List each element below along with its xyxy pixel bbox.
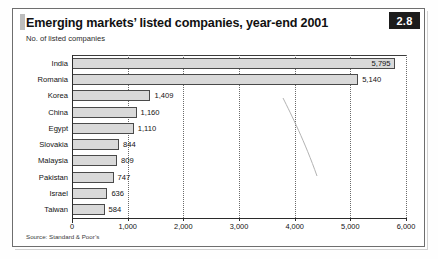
x-axis-tick bbox=[183, 218, 184, 221]
gridline bbox=[406, 55, 407, 218]
bar-value-label: 584 bbox=[105, 204, 122, 215]
x-axis-tick bbox=[406, 218, 407, 221]
category-label: Korea bbox=[2, 90, 68, 101]
plot-area: 5,7955,1401,4091,1601,110844809747636584 bbox=[72, 55, 406, 218]
bar bbox=[72, 172, 114, 183]
category-label: India bbox=[2, 58, 68, 69]
bar-row: 844 bbox=[72, 139, 406, 150]
source-note: Source: Standard & Poor’s bbox=[26, 233, 99, 240]
bar-row: 1,160 bbox=[72, 107, 406, 118]
bar bbox=[72, 204, 105, 215]
bar-value-label: 636 bbox=[107, 188, 124, 199]
bar-value-label: 1,409 bbox=[150, 90, 173, 101]
x-axis-label: 0 bbox=[70, 222, 74, 231]
x-axis-label: 1,000 bbox=[118, 222, 137, 231]
bar bbox=[72, 74, 358, 85]
bar bbox=[72, 155, 117, 166]
x-axis-label: 2,000 bbox=[174, 222, 193, 231]
bar-value-label: 844 bbox=[119, 139, 136, 150]
x-axis-tick bbox=[239, 218, 240, 221]
bar-value-label: 1,110 bbox=[134, 123, 156, 134]
x-axis-label: 6,000 bbox=[397, 222, 416, 231]
bar-row: 584 bbox=[72, 204, 406, 215]
bar-row: 5,140 bbox=[72, 74, 406, 85]
category-label: China bbox=[2, 107, 68, 118]
bar bbox=[72, 123, 134, 134]
bar-row: 809 bbox=[72, 155, 406, 166]
chart-subtitle: No. of listed companies bbox=[26, 34, 105, 43]
bar-value-label: 747 bbox=[114, 172, 131, 183]
bar bbox=[72, 90, 150, 101]
bar-value-label: 1,160 bbox=[137, 107, 160, 118]
bar-row: 636 bbox=[72, 188, 406, 199]
x-axis-tick bbox=[350, 218, 351, 221]
bar bbox=[72, 139, 119, 150]
bar-row: 1,110 bbox=[72, 123, 406, 134]
x-axis-label: 3,000 bbox=[230, 222, 249, 231]
category-label: Pakistan bbox=[2, 172, 68, 183]
bar-row: 1,409 bbox=[72, 90, 406, 101]
category-axis-labels: IndiaRomaniaKoreaChinaEgyptSlovakiaMalay… bbox=[0, 55, 68, 218]
category-label: Israel bbox=[2, 188, 68, 199]
x-axis-tick bbox=[72, 218, 73, 221]
category-label: Romania bbox=[2, 74, 68, 85]
category-label: Taiwan bbox=[2, 204, 68, 215]
y-axis-line bbox=[72, 55, 73, 223]
category-label: Egypt bbox=[2, 123, 68, 134]
bar-value-label: 809 bbox=[117, 155, 134, 166]
x-axis-label: 5,000 bbox=[341, 222, 360, 231]
bar-row: 747 bbox=[72, 172, 406, 183]
x-axis-label: 4,000 bbox=[285, 222, 304, 231]
bar bbox=[72, 107, 137, 118]
page-title: Emerging markets’ listed companies, year… bbox=[26, 16, 328, 30]
x-axis-tick bbox=[128, 218, 129, 221]
category-label: Malaysia bbox=[2, 155, 68, 166]
bar-value-label: 5,140 bbox=[358, 74, 381, 85]
figure-number-badge: 2.8 bbox=[389, 12, 420, 29]
x-axis-tick bbox=[295, 218, 296, 221]
bar bbox=[72, 188, 107, 199]
bar-value-label: 5,795 bbox=[72, 58, 395, 69]
bar-row: 5,795 bbox=[72, 58, 406, 69]
category-label: Slovakia bbox=[2, 139, 68, 150]
title-accent-mark bbox=[20, 14, 25, 30]
